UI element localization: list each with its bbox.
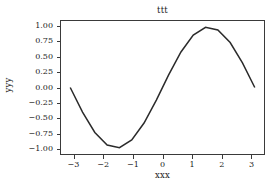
y-tick-label: 0.50 — [7, 53, 53, 61]
x-tick-mark — [163, 155, 164, 159]
y-tick-label: 0.25 — [7, 68, 53, 76]
x-tick-mark — [251, 155, 252, 159]
x-tick-mark — [222, 155, 223, 159]
plot-canvas — [61, 21, 264, 154]
y-tick-label: 0.00 — [7, 84, 53, 92]
x-tick-mark — [103, 155, 104, 159]
x-tick-mark — [74, 155, 75, 159]
y-tick-label: −0.75 — [7, 130, 53, 138]
x-tick-label: 0 — [148, 160, 178, 169]
x-tick-label: −1 — [118, 160, 148, 169]
chart-title: ttt — [60, 4, 265, 16]
y-tick-label: −0.25 — [7, 99, 53, 107]
x-tick-label: −2 — [88, 160, 118, 169]
data-series-line — [70, 27, 255, 147]
x-tick-label: −3 — [59, 160, 89, 169]
x-axis-label: xxx — [60, 170, 265, 180]
x-tick-mark — [192, 155, 193, 159]
y-tick-label: 1.00 — [7, 22, 53, 30]
chart-figure: ttt yyy xxx 1.000.750.500.250.00−0.25−0.… — [0, 0, 276, 186]
plot-axes — [60, 20, 265, 155]
x-tick-mark — [133, 155, 134, 159]
x-tick-label: 3 — [236, 160, 266, 169]
x-tick-label: 1 — [177, 160, 207, 169]
y-tick-label: −1.00 — [7, 145, 53, 153]
y-tick-label: −0.50 — [7, 114, 53, 122]
x-tick-label: 2 — [207, 160, 237, 169]
y-tick-label: 0.75 — [7, 37, 53, 45]
